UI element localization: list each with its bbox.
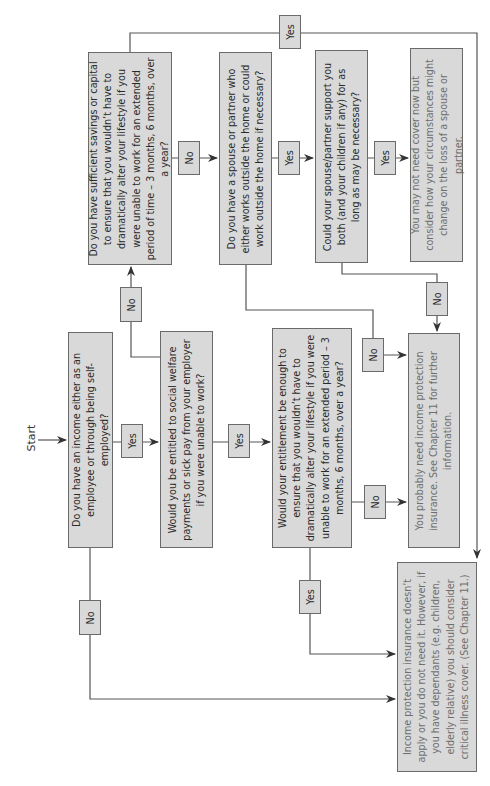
outcome-does-not-apply: Income protection insurance doesn’t appl… bbox=[397, 562, 477, 772]
edge-welfare-yes: Yes bbox=[228, 424, 250, 458]
edge-savings-yes: Yes bbox=[279, 15, 301, 49]
edge-income-yes: Yes bbox=[121, 424, 143, 458]
edge-spouse-support-yes: Yes bbox=[374, 141, 396, 175]
outcome-probably-need: You probably need income protection insu… bbox=[408, 333, 460, 548]
question-spouse-support: Could your spouse/partner support you bo… bbox=[315, 50, 368, 263]
question-social-welfare-text: Would you be entitled to social welfare … bbox=[165, 337, 208, 542]
question-savings-text: Do you have sufficient savings or capita… bbox=[87, 57, 172, 261]
edge-label: Yes bbox=[285, 24, 296, 40]
start-text: Start bbox=[25, 425, 38, 452]
edge-spouse-works-no: No bbox=[362, 338, 384, 372]
edge-spouse-works-yes: Yes bbox=[278, 141, 300, 175]
question-spouse-works-text: Do you have a spouse or partner who eith… bbox=[224, 59, 267, 259]
question-income-text: Do you have an income either as an emplo… bbox=[69, 337, 112, 543]
edge-spouse-support-no: No bbox=[426, 282, 448, 316]
edge-entitlement-yes: Yes bbox=[299, 580, 321, 614]
edge-label: Yes bbox=[127, 433, 138, 449]
outcome-probably-need-text: You probably need income protection insu… bbox=[413, 341, 456, 541]
start-label: Start bbox=[16, 418, 46, 458]
question-spouse-works: Do you have a spouse or partner who eith… bbox=[219, 52, 272, 265]
edge-label: No bbox=[126, 298, 137, 311]
edge-label: No bbox=[184, 151, 195, 164]
edge-savings-no: No bbox=[178, 141, 200, 175]
edge-label: No bbox=[432, 292, 443, 305]
question-entitlement-text: Would your entitlement be enough to ensu… bbox=[276, 334, 347, 542]
outcome-does-not-apply-text: Income protection insurance doesn’t appl… bbox=[401, 567, 472, 767]
edge-entitlement-no: No bbox=[364, 485, 386, 519]
edge-label: Yes bbox=[305, 589, 316, 605]
question-income: Do you have an income either as an emplo… bbox=[68, 332, 113, 548]
edge-label: Yes bbox=[284, 150, 295, 166]
question-savings: Do you have sufficient savings or capita… bbox=[88, 52, 172, 265]
outcome-may-not-need-text: You may not need cover now but consider … bbox=[408, 55, 465, 255]
question-entitlement: Would your entitlement be enough to ensu… bbox=[272, 328, 352, 548]
edge-welfare-no: No bbox=[120, 287, 142, 322]
edge-income-no: No bbox=[79, 600, 101, 635]
edge-label: Yes bbox=[380, 150, 391, 166]
edge-label: Yes bbox=[234, 433, 245, 449]
edge-label: No bbox=[368, 348, 379, 361]
edge-label: No bbox=[85, 611, 96, 624]
question-spouse-support-text: Could your spouse/partner support you bo… bbox=[320, 57, 363, 257]
outcome-may-not-need: You may not need cover now but consider … bbox=[410, 48, 463, 262]
question-social-welfare: Would you be entitled to social welfare … bbox=[160, 331, 213, 548]
edge-label: No bbox=[370, 495, 381, 508]
